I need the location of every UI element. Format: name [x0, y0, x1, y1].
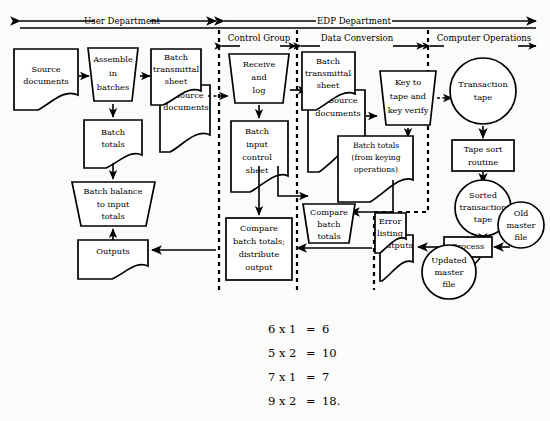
node-label-line: Receive [243, 59, 276, 69]
node-updated-master-file: Updated master file [422, 245, 476, 299]
equation-right: 7 [322, 370, 329, 384]
header-edp-department: EDP Department [224, 16, 536, 26]
node-label-line: transmittal [305, 68, 351, 78]
node-label-line: routine [468, 157, 498, 167]
equation-left: 7 x 1 [268, 370, 296, 384]
node-label-line: Compare [240, 223, 278, 233]
node-label-line: Batch [316, 56, 341, 66]
node-label-line: transaction [459, 202, 507, 212]
node-label-line: documents [163, 102, 208, 112]
node-outputs-user: Outputs [78, 240, 148, 279]
node-label-line: key verify [388, 105, 429, 115]
node-label-line: batch totals; [233, 236, 285, 246]
equation-left: 6 x 1 [268, 322, 296, 336]
node-label-line: output [245, 262, 273, 272]
header-label-computer-operations: Computer Operations [437, 33, 532, 43]
node-label-line: in [109, 68, 118, 78]
node-old-master-file: Old master file [498, 202, 544, 248]
node-label-line: Batch balance [84, 186, 143, 196]
equation-left: 5 x 2 [268, 346, 296, 360]
node-compare-batch-totals-distribute-output: Compare batch totals; distribute output [226, 218, 292, 280]
node-label-line: Source [31, 64, 60, 74]
node-tape-sort-routine: Tape sort routine [452, 140, 514, 171]
node-label-line: Batch [245, 126, 270, 136]
node-assemble-in-batches: Assemble in batches [88, 48, 138, 101]
node-label-line: tape and [390, 91, 426, 101]
equation-operator: = [306, 394, 316, 408]
node-label-line: totals [101, 211, 124, 221]
node-label-line: documents [315, 108, 360, 118]
equation-operator: = [306, 322, 316, 336]
node-label-line: Transaction [458, 79, 508, 89]
node-label-line: Updated [431, 255, 467, 265]
node-label-line: Key to [395, 77, 421, 87]
node-receive-and-log: Receive and log [229, 54, 289, 103]
node-batch-totals-user: Batch totals [84, 120, 142, 168]
node-label-line: tape [474, 92, 492, 102]
equation-right: 18. [322, 394, 340, 408]
node-label-line: Batch totals [353, 141, 399, 150]
equation-operator: = [306, 370, 316, 384]
node-label-line: documents [23, 76, 68, 86]
flowchart-page: User Department EDP Department Control G… [0, 0, 550, 421]
node-batch-totals-keying: Batch totals (from keying operations) [338, 136, 413, 202]
node-label-line: file [443, 279, 456, 289]
equation-operator: = [306, 346, 316, 360]
node-label-line: to input [97, 199, 130, 209]
node-label-line: batch [317, 219, 341, 229]
node-label-line: master [435, 267, 464, 277]
equation-right: 10 [322, 346, 337, 360]
header-user-department: User Department [20, 16, 216, 26]
node-label-line: (from keying [351, 153, 400, 162]
node-label-line: Sorted [469, 190, 497, 200]
node-label-line: Old [514, 208, 529, 218]
equation-right: 6 [322, 322, 329, 336]
header-label-edp-department: EDP Department [317, 16, 392, 26]
node-source-documents-1: Source documents [14, 49, 78, 110]
header-data-conversion: Data Conversion [301, 33, 424, 47]
node-label-line: control [242, 152, 272, 162]
equation-list: 6 x 1 = 6 5 x 2 = 10 7 x 1 = 7 9 x 2 = 1… [268, 322, 340, 408]
node-label-line: Batch [101, 127, 126, 137]
node-label-line: Assemble [92, 54, 133, 64]
node-label-line: file [515, 232, 528, 242]
node-label-line: tape [474, 214, 492, 224]
node-label-line: and [251, 72, 266, 82]
node-key-to-tape-and-key-verify: Key to tape and key verify [380, 71, 436, 125]
node-label-line: Batch [164, 52, 189, 62]
node-label-line: Outputs [96, 246, 129, 256]
node-label-line: batches [97, 82, 129, 92]
node-label-line: input [246, 139, 268, 149]
node-label-line: Error [379, 216, 402, 226]
node-label-line: operations) [354, 165, 398, 174]
node-label-line: log [253, 85, 266, 95]
node-label-line: master [507, 220, 536, 230]
node-label-line: totals [317, 231, 340, 241]
header-computer-operations: Computer Operations [430, 33, 536, 47]
node-label-line: listing [377, 228, 403, 238]
node-transaction-tape: Transaction tape [450, 58, 516, 124]
header-label-control-group: Control Group [228, 33, 291, 43]
header-label-data-conversion: Data Conversion [321, 33, 394, 43]
node-label-line: Compare [310, 207, 348, 217]
node-label-line: sheet [246, 165, 269, 175]
node-compare-batch-totals: Compare batch totals [303, 204, 355, 243]
header-control-group: Control Group [222, 33, 296, 47]
node-label-line: totals [101, 139, 124, 149]
flowchart-canvas: User Department EDP Department Control G… [0, 0, 550, 421]
node-label-line: transmittal [153, 64, 199, 74]
node-label-line: sheet [317, 80, 340, 90]
node-label-line: distribute [239, 249, 280, 259]
node-batch-balance-to-input-totals: Batch balance to input totals [72, 182, 155, 226]
equation-left: 9 x 2 [268, 394, 296, 408]
node-label-line: sheet [165, 76, 188, 86]
node-label-line: Tape sort [464, 144, 503, 154]
header-label-user-department: User Department [84, 16, 161, 26]
